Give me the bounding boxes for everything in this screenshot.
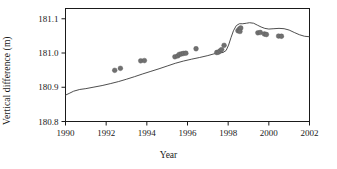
x-tick-label: 1996 [179,128,198,138]
y-tick-label: 181.0 [38,48,59,58]
x-axis-ticks: 1990199219941996199820002002 [57,122,319,138]
data-point [264,32,269,37]
data-point [238,29,243,34]
x-tick-label: 1992 [97,128,115,138]
y-tick-label: 180.9 [38,82,59,92]
data-point [279,34,284,39]
x-tick-label: 1990 [57,128,76,138]
y-axis-ticks: 180.8180.9181.0181.1 [38,14,65,127]
y-axis-label: Vertical difference (m) [2,36,12,125]
y-tick-label: 180.8 [38,117,59,127]
x-tick-label: 2000 [260,128,279,138]
chart-figure: 1990199219941996199820002002 180.8180.91… [0,0,337,169]
data-point [118,66,123,71]
data-point [142,58,147,63]
y-tick-label: 181.1 [38,14,58,24]
data-point [219,47,224,52]
data-point [112,68,117,73]
x-tick-label: 1998 [219,128,238,138]
x-tick-label: 2002 [301,128,319,138]
x-tick-label: 1994 [138,128,157,138]
data-point [222,43,227,48]
data-point [183,51,188,56]
data-point [194,46,199,51]
plot-frame [66,9,310,122]
scatter-plot-canvas: 1990199219941996199820002002 180.8180.91… [0,0,337,169]
x-axis-label: Year [0,150,337,160]
